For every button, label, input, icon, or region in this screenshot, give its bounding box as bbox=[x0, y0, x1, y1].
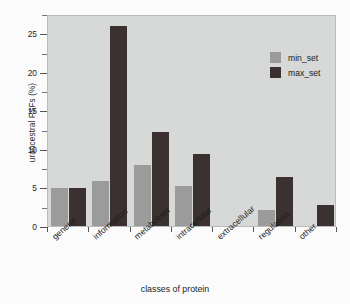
x-axis-tick bbox=[171, 227, 172, 232]
chart-figure: urancestral FSFs (%) 0510152025 min_set … bbox=[0, 0, 350, 304]
x-axis-tick bbox=[253, 227, 254, 232]
x-axis-title: classes of protein bbox=[0, 284, 350, 294]
y-axis-tick-label: 10 bbox=[7, 145, 37, 155]
chart-legend: min_set max_set bbox=[270, 52, 320, 82]
legend-label-min-set: min_set bbox=[288, 53, 318, 63]
y-axis-tick bbox=[40, 34, 47, 35]
legend-swatch-min-set bbox=[270, 52, 281, 63]
bar-min_set-metabolism bbox=[134, 165, 151, 226]
y-axis-tick-label: 15 bbox=[7, 106, 37, 116]
legend-swatch-max-set bbox=[270, 67, 281, 78]
x-axis-tick bbox=[212, 227, 213, 232]
legend-item-min-set: min_set bbox=[270, 52, 320, 63]
x-axis-tick bbox=[336, 227, 337, 232]
y-axis-tick-label: 20 bbox=[7, 68, 37, 78]
bar-max_set-other bbox=[317, 205, 334, 226]
y-axis-tick-label: 25 bbox=[7, 29, 37, 39]
bar-group bbox=[48, 16, 335, 226]
x-axis-tick bbox=[47, 227, 48, 232]
x-axis-tick bbox=[295, 227, 296, 232]
plot-area: min_set max_set bbox=[47, 15, 336, 227]
y-axis-tick bbox=[40, 73, 47, 74]
y-axis-tick-label: 0 bbox=[7, 222, 37, 232]
x-axis-tick bbox=[130, 227, 131, 232]
y-axis-tick-label: 5 bbox=[7, 183, 37, 193]
bar-max_set-information bbox=[110, 26, 127, 226]
x-axis-tick bbox=[88, 227, 89, 232]
legend-label-max-set: max_set bbox=[288, 68, 320, 78]
legend-item-max-set: max_set bbox=[270, 67, 320, 78]
y-axis-tick bbox=[40, 111, 47, 112]
y-axis-tick bbox=[40, 227, 47, 228]
y-axis-tick bbox=[40, 188, 47, 189]
y-axis-tick bbox=[40, 150, 47, 151]
